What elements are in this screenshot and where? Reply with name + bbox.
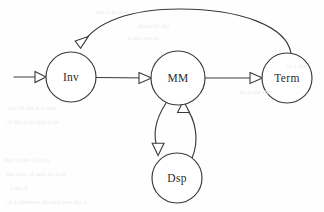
node-term-label: Term <box>274 72 299 84</box>
node-inv[interactable]: Inv <box>46 52 96 102</box>
node-term[interactable]: Term <box>262 53 312 103</box>
edge-entry-to-inv <box>14 72 46 83</box>
node-dsp[interactable]: Dsp <box>152 153 202 203</box>
edge-term-to-inv <box>75 9 291 53</box>
edge-inv-to-mm-arrowhead <box>139 73 152 84</box>
state-transition-diagram: Inv MM Term Dsp <box>0 0 324 212</box>
node-mm-label: MM <box>167 72 188 84</box>
edge-entry-to-inv-arrowhead <box>35 72 46 83</box>
node-dsp-label: Dsp <box>167 172 186 185</box>
node-mm[interactable]: MM <box>151 51 205 105</box>
diagram-canvas: Inv MM Term Dsp the a in andmost of thea… <box>0 0 324 212</box>
edge-term-to-inv-arc <box>82 9 291 53</box>
edge-dsp-to-mm <box>178 101 196 159</box>
edge-inv-to-mm <box>96 73 152 84</box>
edge-mm-to-dsp <box>152 103 166 156</box>
edge-mm-to-term <box>205 73 263 84</box>
node-inv-label: Inv <box>63 71 79 83</box>
edge-mm-to-term-arrowhead <box>250 73 263 84</box>
edge-mm-to-dsp-arrowhead <box>152 143 164 155</box>
edge-term-to-inv-arrowhead <box>75 37 88 49</box>
